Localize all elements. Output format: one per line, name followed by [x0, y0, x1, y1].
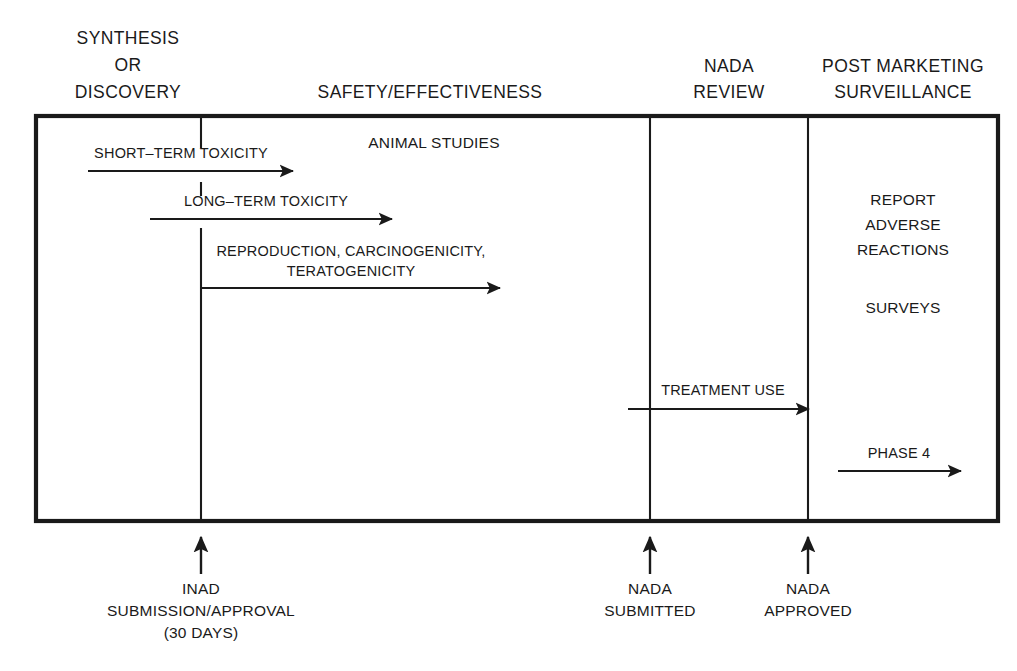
milestone-nada-submitted-line-2: SUBMITTED — [604, 602, 695, 619]
phase-header-nada-review-line-2: REVIEW — [693, 82, 765, 102]
track-treatment-use: TREATMENT USE — [628, 382, 809, 409]
surveillance-item-report-adverse-reactions: REPORT ADVERSE REACTIONS — [857, 191, 949, 258]
surveillance-report-line-1: REPORT — [870, 191, 936, 208]
phase-header-post-marketing-surveillance: POST MARKETING SURVEILLANCE — [822, 56, 984, 102]
milestone-nada-approved: NADA APPROVED — [764, 537, 852, 619]
track-phase-4: PHASE 4 — [838, 445, 961, 471]
diagram-canvas: SYNTHESIS OR DISCOVERY SAFETY/EFFECTIVEN… — [0, 0, 1017, 671]
track-reproduction-label-line-1: REPRODUCTION, CARCINOGENICITY, — [216, 243, 485, 259]
track-reproduction-carcinogenicity-teratogenicity: REPRODUCTION, CARCINOGENICITY, TERATOGEN… — [201, 243, 500, 288]
section-label-animal-studies: ANIMAL STUDIES — [368, 134, 499, 151]
surveillance-surveys-label: SURVEYS — [865, 299, 940, 316]
milestones: INAD SUBMISSION/APPROVAL (30 DAYS) NADA … — [107, 537, 852, 641]
column-dividers — [201, 118, 808, 519]
milestone-nada-approved-line-1: NADA — [786, 580, 830, 597]
phase-header-post-marketing-surveillance-line-1: POST MARKETING — [822, 56, 984, 76]
phase-header-nada-review: NADA REVIEW — [693, 56, 765, 102]
phase-header-safety-effectiveness-line-1: SAFETY/EFFECTIVENESS — [318, 82, 543, 102]
surveillance-report-line-3: REACTIONS — [857, 241, 949, 258]
track-short-term-toxicity: SHORT–TERM TOXICITY — [88, 145, 293, 171]
track-long-term-toxicity-label: LONG–TERM TOXICITY — [184, 193, 348, 209]
milestone-inad-submission-approval: INAD SUBMISSION/APPROVAL (30 DAYS) — [107, 537, 295, 641]
milestone-nada-approved-line-2: APPROVED — [764, 602, 852, 619]
track-long-term-toxicity: LONG–TERM TOXICITY — [150, 193, 392, 219]
surveillance-item-surveys: SURVEYS — [865, 299, 940, 316]
track-phase-4-label: PHASE 4 — [868, 445, 931, 461]
phase-header-post-marketing-surveillance-line-2: SURVEILLANCE — [834, 82, 972, 102]
milestone-nada-submitted: NADA SUBMITTED — [604, 537, 695, 619]
phase-header-synthesis-line-1: SYNTHESIS — [77, 28, 180, 48]
phase-header-safety-effectiveness: SAFETY/EFFECTIVENESS — [318, 82, 543, 102]
surveillance-report-line-2: ADVERSE — [865, 216, 940, 233]
milestone-inad-line-3: (30 DAYS) — [164, 624, 239, 641]
timeline-frame — [36, 116, 998, 521]
milestone-nada-submitted-line-1: NADA — [628, 580, 672, 597]
milestone-inad-line-1: INAD — [182, 580, 220, 597]
milestone-inad-line-2: SUBMISSION/APPROVAL — [107, 602, 295, 619]
phase-header-nada-review-line-1: NADA — [704, 56, 754, 76]
phase-headers: SYNTHESIS OR DISCOVERY SAFETY/EFFECTIVEN… — [75, 28, 984, 102]
phase-header-synthesis: SYNTHESIS OR DISCOVERY — [75, 28, 181, 102]
track-short-term-toxicity-label: SHORT–TERM TOXICITY — [94, 145, 268, 161]
surveillance-items: REPORT ADVERSE REACTIONS SURVEYS — [857, 191, 949, 316]
phase-header-synthesis-line-3: DISCOVERY — [75, 82, 181, 102]
phase-header-synthesis-line-2: OR — [114, 55, 141, 75]
track-treatment-use-label: TREATMENT USE — [661, 382, 785, 398]
drug-approval-timeline-diagram: SYNTHESIS OR DISCOVERY SAFETY/EFFECTIVEN… — [0, 0, 1017, 671]
track-reproduction-label-line-2: TERATOGENICITY — [287, 263, 416, 279]
